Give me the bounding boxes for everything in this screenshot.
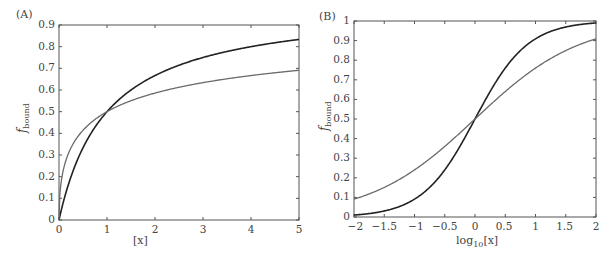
y-tick-label: 0 xyxy=(343,210,350,222)
y-tick-label: 0.7 xyxy=(333,73,350,85)
ylabel-sub: bound xyxy=(324,101,333,126)
y-tick-label: 0.8 xyxy=(38,40,55,52)
panel-a-x-axis-title: [x] xyxy=(133,234,148,247)
x-tick-label: 5 xyxy=(296,223,303,235)
ylabel-sub: bound xyxy=(22,103,31,128)
x-tick-label: 1.5 xyxy=(556,220,573,232)
x-tick-label: 2 xyxy=(593,220,600,232)
x-tick-label: −1 xyxy=(408,220,423,232)
y-tick-label: 0.1 xyxy=(333,190,350,202)
gray-curve-line xyxy=(354,39,596,199)
y-tick-label: 0 xyxy=(48,213,55,225)
x-tick-label: 0 xyxy=(472,220,479,232)
xlabel-tail: [x] xyxy=(483,234,498,247)
y-tick-label: 1 xyxy=(343,14,350,26)
xlabel-log: log xyxy=(456,234,473,247)
panel-b-y-axis-title: fbound xyxy=(317,101,333,131)
x-tick-label: 1 xyxy=(532,220,539,232)
y-tick-label: 0.6 xyxy=(333,92,350,104)
black-curve-line xyxy=(59,39,299,220)
x-tick-label: 4 xyxy=(248,223,255,235)
y-tick-label: 0.3 xyxy=(333,151,350,163)
y-tick-label: 0.4 xyxy=(333,132,350,144)
y-tick-label: 0.1 xyxy=(38,191,55,203)
ylabel-main: f xyxy=(15,129,29,133)
x-tick-label: 1 xyxy=(104,223,111,235)
y-tick-label: 0.2 xyxy=(333,171,350,183)
xlabel-sub: 10 xyxy=(473,240,483,249)
x-tick-label: 0 xyxy=(56,223,63,235)
x-tick-label: −1.5 xyxy=(371,220,397,232)
y-tick-label: 0.2 xyxy=(38,170,55,182)
ylabel-main: f xyxy=(317,127,331,131)
y-tick-label: 0.5 xyxy=(333,112,350,124)
y-tick-label: 0.9 xyxy=(38,18,55,30)
x-tick-label: 0.5 xyxy=(496,220,513,232)
y-tick-label: 0.4 xyxy=(38,126,55,138)
y-tick-label: 0.7 xyxy=(38,61,55,73)
y-tick-label: 0.8 xyxy=(333,53,350,65)
panel-a-chart: (A) [x] fbound 01234500.10.20.30.40.50.6… xyxy=(0,0,306,261)
panel-b-x-axis-title: log10[x] xyxy=(456,234,498,249)
plot-frame xyxy=(59,25,299,220)
y-tick-label: 0.6 xyxy=(38,83,55,95)
x-tick-label: 3 xyxy=(200,223,207,235)
gray-curve-line xyxy=(59,70,299,220)
y-tick-label: 0.9 xyxy=(333,34,350,46)
panel-b-chart: (B) log10[x] fbound −2−1.5−1−0.500.511.5… xyxy=(306,0,613,261)
x-tick-label: 2 xyxy=(152,223,159,235)
y-tick-label: 0.5 xyxy=(38,105,55,117)
y-tick-label: 0.3 xyxy=(38,148,55,160)
panel-a-y-axis-title: fbound xyxy=(15,103,31,133)
x-tick-label: −0.5 xyxy=(432,220,458,232)
